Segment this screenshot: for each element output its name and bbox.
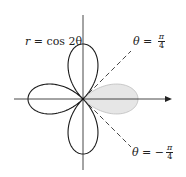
ray-lower-label: θ = −π4: [132, 144, 173, 161]
curve-equation-label: r = cos 2θ: [25, 35, 82, 48]
ray-upper-lhs: θ: [133, 35, 140, 48]
x-axis-arrow-icon: [165, 96, 172, 102]
ray-lower-den: 4: [166, 153, 173, 161]
ray-lower-lhs: θ: [132, 146, 139, 159]
ray-upper-fraction: π4: [158, 33, 165, 50]
ray-lower-fraction: π4: [166, 144, 173, 161]
curve-label-rhs: cos 2θ: [46, 35, 82, 48]
ray-upper-den: 4: [158, 42, 165, 50]
ray-lower-eq: =: [139, 146, 155, 159]
ray-upper-label: θ = π4: [133, 33, 165, 50]
ray-lower-sign: −: [155, 146, 164, 159]
ray-upper-eq: =: [140, 35, 156, 48]
curve-label-eq: =: [30, 35, 46, 48]
origin-point: [82, 98, 85, 101]
